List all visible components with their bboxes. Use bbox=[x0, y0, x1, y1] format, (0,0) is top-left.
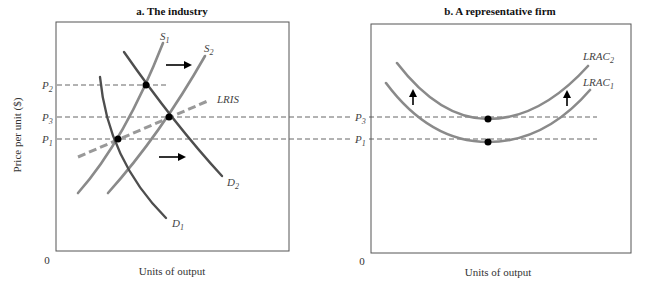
origin-label: 0 bbox=[44, 254, 50, 266]
lrac1-label: LRAC1 bbox=[582, 76, 614, 91]
y-axis-label: Price per unit ($) bbox=[11, 97, 24, 172]
lrac1-minimum-point bbox=[485, 139, 492, 146]
p2-label: P2 bbox=[41, 79, 53, 94]
supply-curve-s1 bbox=[78, 43, 163, 193]
panel-firm: b. A representative firm P3 P1 LRAC2 LRA… bbox=[352, 5, 631, 278]
equilibrium-point-p1 bbox=[115, 136, 122, 143]
d1-label: D1 bbox=[171, 217, 184, 232]
lris-label: LRIS bbox=[216, 93, 240, 105]
lrac2-minimum-point bbox=[485, 116, 492, 123]
lrac2-curve bbox=[397, 63, 588, 119]
p3-label: P3 bbox=[41, 111, 53, 126]
panel-a-title: a. The industry bbox=[136, 5, 208, 17]
x-axis-label: Units of output bbox=[139, 265, 206, 277]
lrac2-label: LRAC2 bbox=[582, 50, 614, 65]
s1-label: S1 bbox=[160, 30, 170, 45]
equilibrium-point-p3 bbox=[166, 114, 173, 121]
panel-b-title: b. A representative firm bbox=[444, 5, 555, 17]
equilibrium-point-p2 bbox=[143, 82, 150, 89]
firm-x-axis-label: Units of output bbox=[465, 266, 532, 278]
chart-canvas: a. The industry Price per unit ($) P2 P3… bbox=[0, 0, 645, 290]
firm-origin-label: 0 bbox=[359, 255, 365, 267]
s2-label: S2 bbox=[204, 42, 214, 57]
d2-label: D2 bbox=[226, 176, 239, 191]
p1-label: P1 bbox=[41, 133, 53, 148]
